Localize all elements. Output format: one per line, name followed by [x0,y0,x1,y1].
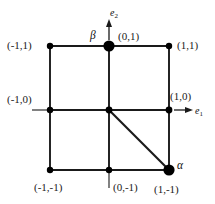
node-0-1-beta [103,40,114,51]
mesh-diagram-canvas [0,0,215,204]
node-1-minus1-alpha [163,164,174,175]
node-1-0 [166,107,173,114]
vertex-label-top-center: (0,1) [118,31,139,42]
axis-label-e1: e1 [195,106,203,118]
diagonal-edge-center-to-alpha [109,110,169,170]
node-minus1-0 [47,107,53,113]
axis-label-e2-subscript: 2 [114,12,118,20]
vertex-marker-beta: β [90,30,96,42]
mesh-figure: e2 e1 β α (-1,1) (0,1) (1,1) (-1,0) (1,0… [0,0,215,204]
axis-label-e1-subscript: 1 [199,110,203,118]
vertex-label-mid-left: (-1,0) [7,94,32,105]
vertex-label-bottom-left: (-1,-1) [34,182,62,193]
node-minus1-minus1 [47,167,53,173]
vertex-marker-alpha: α [177,160,183,172]
axis-label-e2: e2 [110,8,118,20]
axis-arrow-e2-head [106,19,112,27]
vertex-label-bottom-right: (1,-1) [154,184,179,195]
node-0-0-center [106,107,113,114]
node-0-minus1 [106,167,112,173]
node-1-1 [166,43,172,49]
vertex-label-top-right: (1,1) [177,40,198,51]
vertex-label-mid-right: (1,0) [170,91,191,102]
diagonal-edge-group [109,110,169,170]
node-minus1-1 [47,43,53,49]
axis-arrow-e1-head [185,107,193,113]
vertex-label-top-left: (-1,1) [7,40,32,51]
axis-stub-group [32,110,109,188]
vertex-label-bottom-center: (0,-1) [113,182,138,193]
